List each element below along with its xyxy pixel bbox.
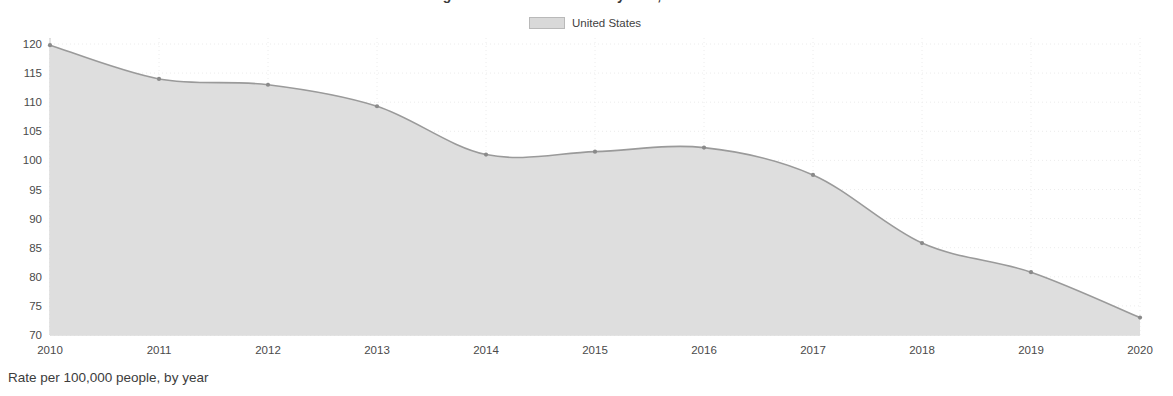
x-tick-2020: 2020: [1127, 344, 1153, 356]
y-tick-110: 110: [8, 96, 42, 108]
y-tick-95: 95: [8, 184, 42, 196]
y-tick-120: 120: [8, 38, 42, 50]
x-tick-2010: 2010: [37, 344, 63, 356]
y-tick-75: 75: [8, 300, 42, 312]
data-point-2012[interactable]: [266, 83, 270, 87]
data-point-2013[interactable]: [375, 104, 379, 108]
x-tick-2011: 2011: [147, 344, 172, 356]
area-fill-united-states: [50, 45, 1140, 335]
x-tick-2012: 2012: [255, 344, 281, 356]
plot-area: 120115110105100959085807570 201020112012…: [0, 0, 1173, 396]
y-tick-115: 115: [8, 67, 42, 79]
chart-screenshot: Drug Overdose Death Rates by Year, Unite…: [0, 0, 1173, 396]
y-tick-70: 70: [8, 329, 42, 341]
data-point-2014[interactable]: [484, 152, 488, 156]
data-point-2011[interactable]: [157, 77, 161, 81]
x-tick-2014: 2014: [473, 344, 499, 356]
data-point-2020[interactable]: [1138, 315, 1142, 319]
x-tick-2015: 2015: [582, 344, 608, 356]
area-chart-svg: [0, 0, 1173, 396]
y-tick-80: 80: [8, 271, 42, 283]
y-tick-90: 90: [8, 213, 42, 225]
data-point-2018[interactable]: [920, 241, 924, 245]
y-tick-105: 105: [8, 125, 42, 137]
x-tick-2016: 2016: [691, 344, 717, 356]
data-point-2015[interactable]: [593, 150, 597, 154]
y-tick-85: 85: [8, 242, 42, 254]
x-tick-2019: 2019: [1018, 344, 1044, 356]
data-point-2019[interactable]: [1029, 270, 1033, 274]
chart-caption: Rate per 100,000 people, by year: [8, 370, 208, 385]
x-tick-2017: 2017: [800, 344, 826, 356]
data-point-2016[interactable]: [702, 145, 706, 149]
x-tick-2013: 2013: [364, 344, 390, 356]
data-point-2017[interactable]: [811, 173, 815, 177]
y-tick-100: 100: [8, 154, 42, 166]
data-point-2010[interactable]: [48, 43, 52, 47]
x-tick-2018: 2018: [909, 344, 935, 356]
